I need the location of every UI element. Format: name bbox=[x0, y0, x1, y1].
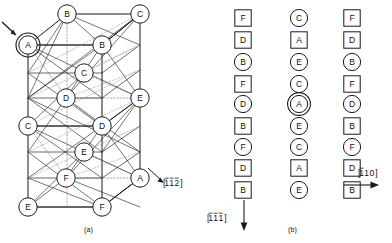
panel-a: BCABCDECDEFAEF[112] bbox=[2, 5, 183, 216]
node-label: A bbox=[296, 163, 302, 173]
direction-arrow-110-head bbox=[371, 182, 380, 189]
atom-label: C bbox=[137, 9, 143, 19]
panel-a-lattice bbox=[28, 14, 140, 207]
stack-node: B bbox=[344, 118, 360, 134]
figure-container: BCABCDECDEFAEF[112]FDBFDBFDBCAECAECAEFDB… bbox=[0, 0, 392, 243]
atom-node: B bbox=[93, 36, 111, 54]
direction-label-110-close-bracket: ] bbox=[375, 168, 377, 178]
atom-node: E bbox=[75, 143, 93, 161]
direction-arrow-111-head bbox=[241, 223, 248, 232]
atom-node: E bbox=[19, 198, 37, 216]
direction-label-112: [112] bbox=[163, 178, 183, 188]
stack-node: A bbox=[291, 160, 307, 176]
stack-node: F bbox=[344, 76, 360, 92]
stack-node: D bbox=[343, 95, 360, 112]
panel-b-caption: (b) bbox=[288, 226, 297, 233]
node-label: F bbox=[240, 13, 245, 23]
node-label: F bbox=[240, 79, 245, 89]
atom-label: E bbox=[25, 202, 31, 212]
atom-label: F bbox=[99, 202, 104, 212]
node-label: D bbox=[349, 35, 355, 45]
atom-label: D bbox=[99, 121, 105, 131]
direction-label-111-close-bracket: ] bbox=[224, 213, 226, 223]
stack-node: A bbox=[291, 32, 307, 48]
atom-label: B bbox=[99, 40, 105, 50]
node-label: E bbox=[296, 121, 302, 131]
node-label: B bbox=[240, 185, 246, 195]
stack-node: E bbox=[290, 181, 307, 198]
node-label: B bbox=[240, 121, 246, 131]
stack-node: A bbox=[288, 93, 311, 116]
node-label: C bbox=[296, 79, 302, 89]
direction-label-110-index-2: 0 bbox=[369, 168, 374, 178]
node-label: D bbox=[349, 99, 355, 109]
stack-node: B bbox=[343, 53, 360, 70]
atom-node: C bbox=[75, 64, 93, 82]
panel-b: FDBFDBFDBCAECAECAEFDBFDBFDB[111][110] bbox=[207, 9, 379, 231]
node-label: C bbox=[296, 13, 302, 23]
panel-a-caption: (a) bbox=[84, 226, 93, 233]
node-label: D bbox=[240, 35, 246, 45]
stack-node: C bbox=[290, 75, 307, 92]
stack-node: D bbox=[235, 160, 251, 176]
stack-node: C bbox=[290, 138, 307, 155]
stack-node: B bbox=[235, 182, 251, 198]
direction-label-111: [111] bbox=[207, 213, 227, 223]
atom-label: A bbox=[137, 173, 143, 183]
node-label: A bbox=[296, 35, 302, 45]
atom-label: C bbox=[81, 68, 87, 78]
column-middle: CAECAECAE bbox=[288, 9, 311, 198]
direction-label-111-index-2: 1 bbox=[218, 213, 223, 223]
atom-label: C bbox=[25, 121, 31, 131]
direction-label-112-index-2: 2 bbox=[174, 178, 179, 188]
stack-node: B bbox=[344, 182, 360, 198]
node-label: D bbox=[240, 99, 246, 109]
node-label: B bbox=[240, 57, 246, 67]
atom-node: F bbox=[57, 169, 75, 187]
stack-node: D bbox=[234, 95, 251, 112]
lattice-edge bbox=[28, 152, 84, 207]
stack-node: D bbox=[235, 32, 251, 48]
stack-node: F bbox=[234, 138, 251, 155]
node-label: B bbox=[349, 185, 355, 195]
atom-node: A bbox=[131, 169, 149, 187]
stack-node: E bbox=[290, 117, 307, 134]
atom-node: D bbox=[57, 89, 75, 107]
node-label: B bbox=[349, 121, 355, 131]
stack-node: B bbox=[235, 118, 251, 134]
node-label: D bbox=[349, 163, 355, 173]
atom-node: C bbox=[131, 5, 149, 23]
node-label: F bbox=[349, 142, 354, 152]
crystal-stacking-figure: BCABCDECDEFAEF[112]FDBFDBFDBCAECAECAEFDB… bbox=[0, 0, 392, 243]
node-label: C bbox=[296, 142, 302, 152]
node-label: B bbox=[349, 57, 355, 67]
atom-node: F bbox=[93, 198, 111, 216]
node-label: E bbox=[296, 57, 302, 67]
atom-node: B bbox=[58, 5, 76, 23]
stack-node: F bbox=[235, 10, 251, 26]
atom-label: A bbox=[25, 40, 31, 50]
stack-node: B bbox=[234, 53, 251, 70]
lattice-edge bbox=[102, 45, 140, 98]
node-label: F bbox=[349, 13, 354, 23]
direction-label-112-close-bracket: ] bbox=[180, 178, 182, 188]
atom-label: E bbox=[137, 93, 143, 103]
lattice-edge bbox=[66, 98, 140, 178]
atom-node: D bbox=[93, 117, 111, 135]
stack-node: F bbox=[235, 76, 251, 92]
node-label: F bbox=[349, 79, 354, 89]
atom-node: E bbox=[131, 89, 149, 107]
atom-label: B bbox=[64, 9, 70, 19]
lattice-edge bbox=[66, 14, 140, 98]
stack-node: D bbox=[344, 32, 360, 48]
atom-label: F bbox=[63, 173, 68, 183]
node-label: E bbox=[296, 185, 302, 195]
stack-node: F bbox=[344, 10, 360, 26]
atom-label: D bbox=[63, 93, 69, 103]
atom-node: C bbox=[19, 117, 37, 135]
node-label: F bbox=[240, 142, 245, 152]
stack-node: F bbox=[343, 138, 360, 155]
column-left: FDBFDBFDB bbox=[234, 10, 251, 198]
lattice-edge bbox=[28, 73, 84, 126]
atom-label: E bbox=[81, 147, 87, 157]
